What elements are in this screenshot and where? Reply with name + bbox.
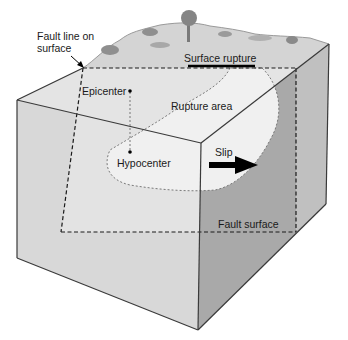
fault-block-diagram: Fault line on surface Surface rupture Ep… bbox=[0, 0, 348, 340]
epicenter-label: Epicenter bbox=[82, 85, 126, 97]
hypocenter-label: Hypocenter bbox=[117, 157, 171, 169]
fault-line-label-line2: surface bbox=[37, 42, 94, 54]
fault-line-label: Fault line on surface bbox=[37, 30, 94, 54]
epicenter-dot bbox=[128, 89, 132, 93]
arrow-pointer-icon bbox=[71, 56, 84, 68]
slip-label: Slip bbox=[215, 146, 233, 158]
hypocenter-dot bbox=[128, 150, 132, 154]
rupture-area-label: Rupture area bbox=[171, 100, 232, 112]
fault-surface-label: Fault surface bbox=[218, 218, 279, 230]
surface-rupture-label: Surface rupture bbox=[184, 52, 256, 64]
fault-line-label-line1: Fault line on bbox=[37, 30, 94, 42]
right-side-face bbox=[296, 44, 329, 232]
